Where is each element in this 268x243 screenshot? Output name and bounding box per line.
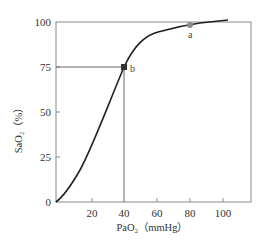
- y-tick-75: 75: [40, 61, 52, 73]
- x-axis-label: PaO₂（mmHg）: [117, 222, 188, 233]
- y-tick-100: 100: [35, 16, 52, 28]
- y-tick-0: 0: [46, 196, 52, 208]
- point-a-label: a: [188, 29, 193, 40]
- x-tick-80: 80: [185, 207, 197, 219]
- y-tick-50: 50: [40, 106, 52, 118]
- dissociation-curve: [56, 20, 228, 202]
- x-tick-20: 20: [87, 207, 99, 219]
- x-tick-labels: 20 40 60 80 100: [87, 207, 232, 219]
- x-tick-40: 40: [119, 207, 131, 219]
- x-axis: [92, 198, 223, 202]
- y-axis: [56, 67, 60, 157]
- point-b-label: b: [130, 63, 135, 74]
- x-tick-100: 100: [215, 207, 232, 219]
- point-b-marker: [121, 64, 127, 70]
- plot-frame: [56, 22, 251, 202]
- x-tick-60: 60: [152, 207, 164, 219]
- y-tick-25: 25: [40, 151, 52, 163]
- y-tick-labels: 100 75 50 25 0: [35, 16, 52, 208]
- y-axis-label: SaO₂（%）: [13, 103, 24, 154]
- guide-lines-b: [56, 67, 124, 202]
- point-a-marker: [187, 22, 193, 28]
- oxygen-dissociation-chart: 100 75 50 25 0 20 40 60 80 100 b a PaO₂（…: [0, 0, 268, 243]
